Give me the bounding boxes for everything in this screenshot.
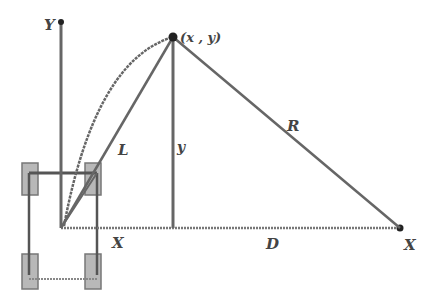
y-axis-label: Y — [44, 16, 56, 34]
y-label: y — [176, 139, 186, 155]
L-label: L — [117, 141, 129, 159]
path-geometry-diagram: Y (x , y) L y R X D X — [0, 0, 438, 295]
y-axis-endpoint-dot — [58, 19, 64, 25]
target-point-label: (x , y) — [180, 30, 221, 45]
R-label: R — [286, 117, 299, 135]
X-near-label: X — [111, 234, 125, 252]
wheel-rear-right — [85, 254, 101, 289]
heading-diagonal — [61, 173, 97, 228]
target-point-dot — [169, 33, 178, 42]
D-label: D — [265, 235, 279, 253]
X-axis-label: X — [403, 236, 417, 254]
chord-L — [61, 37, 173, 228]
